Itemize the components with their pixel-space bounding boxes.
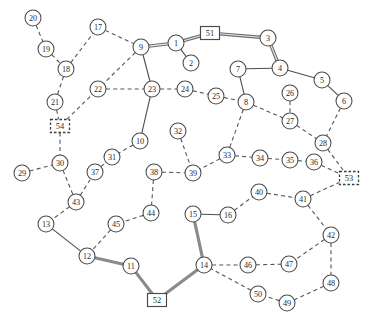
node-23[interactable]: 23 — [144, 81, 160, 97]
node-34[interactable]: 34 — [252, 150, 268, 166]
node-6[interactable]: 6 — [336, 93, 352, 109]
node-8[interactable]: 8 — [238, 94, 254, 110]
node-shape-12[interactable] — [79, 248, 95, 264]
node-shape-35[interactable] — [282, 152, 298, 168]
node-shape-37[interactable] — [87, 164, 103, 180]
node-shape-39[interactable] — [185, 165, 201, 181]
node-5[interactable]: 5 — [314, 72, 330, 88]
node-shape-23[interactable] — [144, 81, 160, 97]
node-2[interactable]: 2 — [183, 55, 199, 71]
node-27[interactable]: 27 — [282, 113, 298, 129]
node-40[interactable]: 40 — [251, 184, 267, 200]
node-shape-53[interactable] — [340, 172, 359, 185]
node-18[interactable]: 18 — [58, 61, 74, 77]
node-3[interactable]: 3 — [260, 30, 276, 46]
node-shape-19[interactable] — [38, 41, 54, 57]
node-17[interactable]: 17 — [90, 19, 106, 35]
node-42[interactable]: 42 — [323, 227, 339, 243]
node-shape-47[interactable] — [281, 256, 297, 272]
node-29[interactable]: 29 — [14, 165, 30, 181]
node-shape-17[interactable] — [90, 19, 106, 35]
node-33[interactable]: 33 — [219, 147, 235, 163]
node-36[interactable]: 36 — [306, 154, 322, 170]
node-shape-50[interactable] — [250, 286, 266, 302]
node-31[interactable]: 31 — [104, 149, 120, 165]
node-shape-16[interactable] — [220, 207, 236, 223]
node-30[interactable]: 30 — [52, 155, 68, 171]
node-38[interactable]: 38 — [146, 164, 162, 180]
node-shape-21[interactable] — [47, 94, 63, 110]
node-shape-13[interactable] — [38, 216, 54, 232]
node-21[interactable]: 21 — [47, 94, 63, 110]
node-shape-42[interactable] — [323, 227, 339, 243]
node-shape-29[interactable] — [14, 165, 30, 181]
node-shape-52[interactable] — [148, 294, 167, 307]
node-shape-46[interactable] — [240, 257, 256, 273]
node-51[interactable]: 51 — [201, 27, 220, 40]
node-shape-49[interactable] — [279, 295, 295, 311]
node-19[interactable]: 19 — [38, 41, 54, 57]
node-shape-28[interactable] — [315, 135, 331, 151]
node-shape-10[interactable] — [132, 133, 148, 149]
node-shape-1[interactable] — [168, 35, 184, 51]
node-shape-5[interactable] — [314, 72, 330, 88]
node-shape-9[interactable] — [133, 39, 149, 55]
node-12[interactable]: 12 — [79, 248, 95, 264]
node-45[interactable]: 45 — [108, 216, 124, 232]
node-shape-4[interactable] — [272, 60, 288, 76]
node-47[interactable]: 47 — [281, 256, 297, 272]
node-shape-48[interactable] — [323, 275, 339, 291]
node-shape-27[interactable] — [282, 113, 298, 129]
node-4[interactable]: 4 — [272, 60, 288, 76]
node-shape-18[interactable] — [58, 61, 74, 77]
node-11[interactable]: 11 — [123, 258, 139, 274]
node-shape-22[interactable] — [90, 81, 106, 97]
node-shape-44[interactable] — [143, 205, 159, 221]
node-shape-6[interactable] — [336, 93, 352, 109]
node-7[interactable]: 7 — [230, 61, 246, 77]
node-shape-3[interactable] — [260, 30, 276, 46]
node-shape-34[interactable] — [252, 150, 268, 166]
node-shape-25[interactable] — [208, 88, 224, 104]
node-shape-15[interactable] — [185, 206, 201, 222]
node-25[interactable]: 25 — [208, 88, 224, 104]
node-26[interactable]: 26 — [282, 85, 298, 101]
node-32[interactable]: 32 — [170, 123, 186, 139]
node-shape-54[interactable] — [51, 120, 70, 133]
node-15[interactable]: 15 — [185, 206, 201, 222]
node-28[interactable]: 28 — [315, 135, 331, 151]
node-14[interactable]: 14 — [196, 257, 212, 273]
node-16[interactable]: 16 — [220, 207, 236, 223]
node-22[interactable]: 22 — [90, 81, 106, 97]
node-53[interactable]: 53 — [340, 172, 359, 185]
node-shape-33[interactable] — [219, 147, 235, 163]
node-shape-51[interactable] — [201, 27, 220, 40]
node-44[interactable]: 44 — [143, 205, 159, 221]
node-shape-32[interactable] — [170, 123, 186, 139]
node-shape-36[interactable] — [306, 154, 322, 170]
node-shape-20[interactable] — [25, 10, 41, 26]
node-35[interactable]: 35 — [282, 152, 298, 168]
node-48[interactable]: 48 — [323, 275, 339, 291]
node-13[interactable]: 13 — [38, 216, 54, 232]
node-1[interactable]: 1 — [168, 35, 184, 51]
node-shape-45[interactable] — [108, 216, 124, 232]
node-46[interactable]: 46 — [240, 257, 256, 273]
node-shape-8[interactable] — [238, 94, 254, 110]
node-20[interactable]: 20 — [25, 10, 41, 26]
node-49[interactable]: 49 — [279, 295, 295, 311]
node-54[interactable]: 54 — [51, 120, 70, 133]
node-43[interactable]: 43 — [68, 194, 84, 210]
node-52[interactable]: 52 — [148, 294, 167, 307]
node-9[interactable]: 9 — [133, 39, 149, 55]
node-shape-40[interactable] — [251, 184, 267, 200]
node-10[interactable]: 10 — [132, 133, 148, 149]
node-shape-14[interactable] — [196, 257, 212, 273]
node-shape-11[interactable] — [123, 258, 139, 274]
node-shape-2[interactable] — [183, 55, 199, 71]
node-41[interactable]: 41 — [295, 191, 311, 207]
node-24[interactable]: 24 — [177, 81, 193, 97]
node-shape-30[interactable] — [52, 155, 68, 171]
node-50[interactable]: 50 — [250, 286, 266, 302]
node-39[interactable]: 39 — [185, 165, 201, 181]
